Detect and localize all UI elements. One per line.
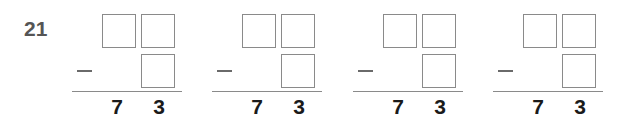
subtraction-problem-4: 7 3 [493,0,608,128]
subtrahend-ones-box[interactable] [422,54,456,88]
subtraction-problem-3: 7 3 [353,0,468,128]
minuend-tens-box[interactable] [383,14,417,48]
minuend-ones-box[interactable] [422,14,456,48]
difference-tens-digit: 7 [391,96,405,118]
difference-ones-digit: 3 [292,96,306,118]
minuend-tens-box[interactable] [523,14,557,48]
subtrahend-ones-box[interactable] [562,54,596,88]
exercise-number: 21 [24,18,47,40]
answer-line [353,91,463,92]
difference-tens-digit: 7 [531,96,545,118]
answer-line [212,91,322,92]
difference-ones-digit: 3 [573,96,587,118]
difference-tens-digit: 7 [110,96,124,118]
minuend-tens-box[interactable] [242,14,276,48]
minus-sign-icon [77,70,92,72]
answer-line [72,91,182,92]
minuend-ones-box[interactable] [281,14,315,48]
subtrahend-ones-box[interactable] [281,54,315,88]
minuend-ones-box[interactable] [562,14,596,48]
answer-line [493,91,603,92]
subtraction-problem-1: 7 3 [72,0,187,128]
difference-ones-digit: 3 [433,96,447,118]
subtraction-problem-2: 7 3 [212,0,327,128]
difference-ones-digit: 3 [152,96,166,118]
minus-sign-icon [358,70,373,72]
minuend-tens-box[interactable] [102,14,136,48]
minuend-ones-box[interactable] [141,14,175,48]
difference-tens-digit: 7 [250,96,264,118]
minus-sign-icon [498,70,513,72]
subtrahend-ones-box[interactable] [141,54,175,88]
minus-sign-icon [217,70,232,72]
